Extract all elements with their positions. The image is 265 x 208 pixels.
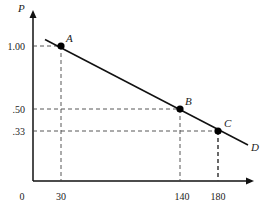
x-axis-arrow-icon — [246, 178, 254, 185]
y-tick-label: .50 — [13, 104, 26, 115]
demand-chart: A B C D P 1.00 .50 .33 0 30 140 180 — [0, 0, 265, 208]
x-tick-label: 180 — [211, 191, 226, 202]
y-axis-arrow-icon — [30, 10, 37, 18]
y-axis-label: P — [17, 2, 25, 14]
x-tick-label: 0 — [20, 191, 25, 202]
point-a-label: A — [65, 32, 73, 44]
point-a — [57, 42, 64, 49]
x-tick-label: 140 — [175, 191, 190, 202]
point-c-label: C — [224, 117, 232, 129]
guide-lines — [33, 46, 218, 181]
point-b-label: B — [185, 95, 192, 107]
curve-label: D — [250, 141, 259, 153]
point-c — [214, 127, 221, 134]
point-b — [176, 105, 183, 112]
y-tick-label: .33 — [13, 126, 26, 137]
y-tick-label: 1.00 — [8, 41, 26, 52]
x-tick-label: 30 — [56, 191, 66, 202]
